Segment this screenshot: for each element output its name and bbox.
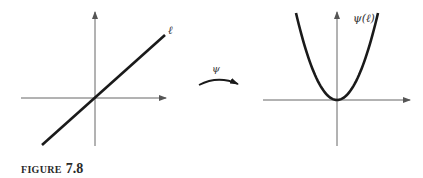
mapping-arrow: ψ <box>199 63 238 85</box>
line-l <box>42 35 165 145</box>
figure-caption: FIGURE7.8 <box>21 158 83 177</box>
parabola-label: ψ(ℓ) <box>353 12 375 25</box>
figure-canvas: ℓ ψ ψ(ℓ) <box>0 0 423 178</box>
mapping-arrow-curve <box>199 80 238 85</box>
right-plot: ψ(ℓ) <box>263 12 410 146</box>
caption-word: FIGURE <box>21 164 62 175</box>
caption-number: 7.8 <box>66 161 84 176</box>
line-l-label: ℓ <box>168 24 173 37</box>
mapping-label: ψ <box>212 63 220 74</box>
left-plot: ℓ <box>21 12 173 146</box>
